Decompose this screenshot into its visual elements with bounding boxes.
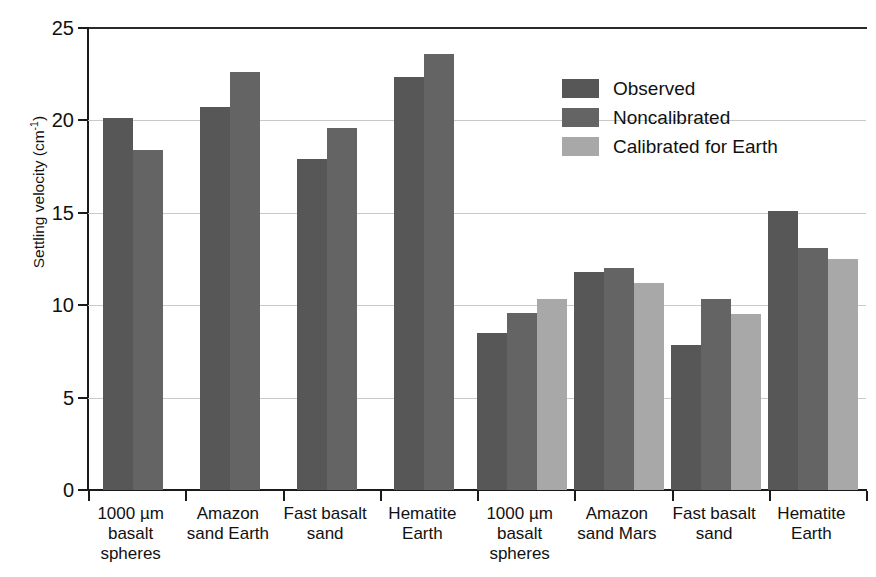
x-tick-mark xyxy=(380,491,382,501)
bar xyxy=(133,150,163,490)
x-category-label-line: sand xyxy=(666,524,763,544)
bar xyxy=(574,272,604,490)
y-tick-mark xyxy=(78,304,87,306)
x-tick-mark xyxy=(672,491,674,501)
x-category-label-line: sand Mars xyxy=(568,524,665,544)
x-category-label-line: sand xyxy=(277,524,374,544)
x-category-label: 1000 µmbasaltspheres xyxy=(82,504,179,564)
bar xyxy=(103,118,133,490)
x-category-label-line: 1000 µm xyxy=(82,504,179,524)
x-category-label: Fast basaltsand xyxy=(666,504,763,544)
bar xyxy=(297,159,327,490)
bar xyxy=(230,72,260,490)
bar xyxy=(537,299,567,490)
legend-label: Noncalibrated xyxy=(613,108,730,127)
legend-item: Observed xyxy=(562,74,862,103)
bar xyxy=(477,333,507,490)
y-axis-label: Settling velocity (cm-1) xyxy=(28,42,48,342)
bar xyxy=(798,248,828,490)
x-category-label-line: Fast basalt xyxy=(277,504,374,524)
x-category-label-line: basalt xyxy=(82,524,179,544)
y-tick-mark xyxy=(78,212,87,214)
x-category-label-line: 1000 µm xyxy=(471,504,568,524)
x-category-label: HematiteEarth xyxy=(374,504,471,544)
bar xyxy=(200,107,230,490)
x-category-label-line: Amazon xyxy=(568,504,665,524)
y-tick-mark xyxy=(78,489,87,491)
x-category-label-line: Earth xyxy=(763,524,860,544)
bar xyxy=(424,54,454,490)
y-tick-label: 5 xyxy=(28,388,74,408)
settling-velocity-bar-chart: 0510152025 Settling velocity (cm-1) 1000… xyxy=(0,0,876,577)
x-category-label-line: Hematite xyxy=(374,504,471,524)
x-tick-mark xyxy=(866,491,868,501)
x-category-label-line: sand Earth xyxy=(179,524,276,544)
y-axis-label-close: ) xyxy=(30,116,47,121)
legend-item: Calibrated for Earth xyxy=(562,132,862,161)
bar xyxy=(828,259,858,490)
x-tick-mark xyxy=(477,491,479,501)
bar xyxy=(731,314,761,490)
bar xyxy=(634,283,664,490)
y-tick-label: 0 xyxy=(28,480,74,500)
bar xyxy=(507,313,537,490)
bar xyxy=(671,345,701,490)
x-tick-mark xyxy=(185,491,187,501)
legend-label: Calibrated for Earth xyxy=(613,137,778,156)
bar xyxy=(604,268,634,490)
bar xyxy=(394,77,424,490)
x-tick-mark xyxy=(574,491,576,501)
legend-label: Observed xyxy=(613,79,695,98)
legend-swatch xyxy=(562,108,599,127)
chart-legend: ObservedNoncalibratedCalibrated for Eart… xyxy=(562,74,862,161)
x-category-label: Amazonsand Mars xyxy=(568,504,665,544)
x-category-label-line: basalt xyxy=(471,524,568,544)
y-tick-mark xyxy=(78,119,87,121)
y-tick-mark xyxy=(78,27,87,29)
x-category-label: HematiteEarth xyxy=(763,504,860,544)
legend-swatch xyxy=(562,137,599,156)
y-axis-label-exponent: -1 xyxy=(28,121,40,130)
y-tick-mark xyxy=(78,397,87,399)
x-category-label-line: Fast basalt xyxy=(666,504,763,524)
x-category-label: Fast basaltsand xyxy=(277,504,374,544)
x-category-label: 1000 µmbasaltspheres xyxy=(471,504,568,564)
x-tick-mark xyxy=(88,491,90,501)
x-category-label-line: spheres xyxy=(471,544,568,564)
y-axis-label-base: Settling velocity (cm xyxy=(30,130,47,268)
bar xyxy=(701,299,731,490)
x-tick-mark xyxy=(283,491,285,501)
x-category-label: Amazonsand Earth xyxy=(179,504,276,544)
bar xyxy=(768,211,798,490)
x-category-label-line: Earth xyxy=(374,524,471,544)
y-tick-label: 25 xyxy=(28,18,74,38)
x-category-label-line: spheres xyxy=(82,544,179,564)
legend-item: Noncalibrated xyxy=(562,103,862,132)
x-category-label-line: Hematite xyxy=(763,504,860,524)
legend-swatch xyxy=(562,79,599,98)
bar xyxy=(327,128,357,490)
x-tick-mark xyxy=(769,491,771,501)
x-category-label-line: Amazon xyxy=(179,504,276,524)
